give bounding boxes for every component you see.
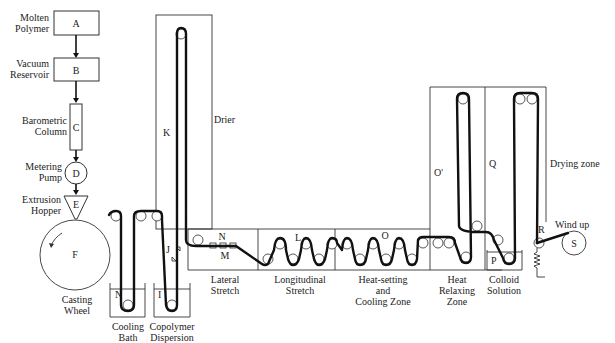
tension-roll-r: R [534, 224, 545, 277]
stretch-enclosure [188, 229, 502, 270]
label-wind-up: Wind up [555, 219, 589, 230]
label-zone: Zone [447, 296, 468, 307]
tag-i: I [158, 289, 161, 300]
label-and: and [376, 285, 390, 296]
tag-f: F [72, 249, 78, 260]
label-lateral-stretch: Stretch [211, 285, 239, 296]
label-cooling: Cooling [112, 321, 144, 332]
label-vacuum: Vacuum [16, 58, 49, 69]
tag-d: D [72, 168, 79, 179]
tag-a: A [72, 18, 80, 29]
drier-enclosure [156, 15, 212, 229]
tag-j: J [166, 244, 170, 255]
arrowhead-icon [73, 98, 79, 103]
nozzle-icon [172, 257, 176, 261]
label-wheel: Wheel [64, 305, 90, 316]
label-barometric: Barometric [22, 115, 68, 126]
label-metering: Metering [25, 161, 62, 172]
label-longitudinal-stretch: Stretch [286, 285, 314, 296]
tag-b: B [73, 65, 80, 76]
tag-m: M [221, 250, 230, 261]
label-cooling-zone: Cooling Zone [355, 296, 411, 307]
stage-b: B Vacuum Reservoir [10, 58, 99, 81]
label-drying-zone: Drying zone [550, 158, 600, 169]
tag-n-lateral: N [218, 231, 225, 242]
arrowhead-icon [73, 190, 79, 195]
label-lateral: Lateral [211, 274, 240, 285]
stage-d: D Metering Pump [25, 161, 87, 184]
label-solution: Solution [487, 285, 521, 296]
roll [458, 94, 468, 104]
label-heat-setting: Heat-setting [359, 274, 408, 285]
stage-f: F Casting Wheel [40, 220, 110, 316]
tag-l: L [295, 232, 301, 243]
roll [444, 238, 454, 248]
label-pump: Pump [39, 172, 62, 183]
stage-c: C Barometric Column [22, 104, 82, 150]
roll [433, 238, 443, 248]
process-diagram: A Molten Polymer B Vacuum Reservoir C Ba… [0, 0, 615, 343]
tag-p: P [491, 255, 497, 266]
label-relaxing: Relaxing [439, 285, 475, 296]
lateral-stretch: N M Lateral Stretch [210, 231, 239, 296]
tag-o-prime: O' [434, 167, 443, 178]
tag-q: Q [489, 158, 497, 169]
wind-up-s: S Wind up [555, 219, 589, 255]
arrowhead-icon [73, 157, 79, 162]
roll [515, 94, 525, 104]
label-reservoir: Reservoir [10, 69, 50, 80]
guide-rolls [111, 29, 537, 310]
drier-k: K Drier [156, 15, 236, 229]
label-polymer: Polymer [15, 23, 50, 34]
label-copolymer: Copolymer [150, 321, 196, 332]
label-column: Column [35, 126, 67, 137]
copolymer-dispersion: I Copolymer Dispersion [150, 283, 196, 343]
tag-k: K [163, 127, 171, 138]
label-hopper: Hopper [31, 205, 62, 216]
label-molten: Molten [20, 12, 49, 23]
label-colloid: Colloid [489, 274, 519, 285]
roll [193, 235, 203, 245]
roll [472, 221, 482, 231]
tag-c: C [73, 122, 80, 133]
label-extrusion: Extrusion [22, 194, 61, 205]
label-bath: Bath [119, 332, 138, 343]
label-heat: Heat [448, 274, 467, 285]
tag-e: E [73, 199, 79, 210]
stage-e: E Extrusion Hopper [22, 194, 88, 219]
tag-o: O [381, 230, 388, 241]
label-drier: Drier [214, 114, 236, 125]
label-casting: Casting [62, 294, 93, 305]
arrowhead-icon [73, 53, 79, 58]
rotation-arrowhead-icon [49, 243, 54, 248]
tag-r: R [538, 224, 545, 235]
film-web-path [109, 28, 568, 311]
stage-a: A Molten Polymer [15, 11, 99, 35]
cooling-bath: N Cooling Bath [110, 283, 145, 343]
spring-icon [534, 248, 545, 277]
label-dispersion: Dispersion [150, 332, 193, 343]
roll [123, 300, 133, 310]
label-longitudinal: Longitudinal [274, 274, 326, 285]
roll [527, 94, 537, 104]
tag-s: S [571, 238, 577, 249]
